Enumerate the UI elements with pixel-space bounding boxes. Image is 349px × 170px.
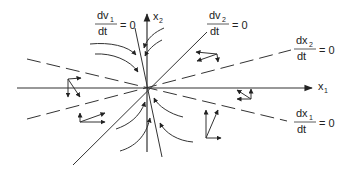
svg-text:= 0: = 0 [319,44,335,56]
label-dx2-dt: dx 2 dt = 0 [294,34,335,62]
svg-text:dt: dt [98,25,107,37]
phase-portrait-diagram: x 2 x 1 dv 1 dt = 0 dv 2 dt = 0 dx 2 dt … [0,0,349,170]
label-dx1-dt: dx 1 dt = 0 [294,107,335,135]
vector-field-arrows [68,52,251,138]
nullcline-dv1 [135,28,162,157]
svg-text:dv: dv [209,9,221,21]
svg-text:1: 1 [324,87,328,94]
svg-text:1: 1 [309,114,313,121]
svg-text:dt: dt [297,123,306,135]
x2-axis-label: x 2 [153,10,163,24]
svg-text:1: 1 [110,16,114,23]
svg-text:dx: dx [296,34,308,46]
nullcline-dx2 [27,50,291,119]
diagram-canvas: x 2 x 1 dv 1 dt = 0 dv 2 dt = 0 dx 2 dt … [0,0,349,170]
svg-text:dt: dt [210,25,219,37]
nullcline-dx1 [27,59,287,121]
svg-text:= 0: = 0 [232,19,248,31]
label-dv1-dt: dv 1 dt = 0 [95,9,136,37]
svg-text:= 0: = 0 [120,19,136,31]
svg-text:2: 2 [309,41,313,48]
label-dv2-dt: dv 2 dt = 0 [207,9,248,37]
svg-text:dv: dv [97,9,109,21]
x1-axis-label: x 1 [318,80,328,94]
svg-text:2: 2 [159,17,163,24]
svg-text:dt: dt [297,50,306,62]
svg-text:2: 2 [222,16,226,23]
svg-text:dx: dx [296,107,308,119]
svg-text:= 0: = 0 [319,117,335,129]
